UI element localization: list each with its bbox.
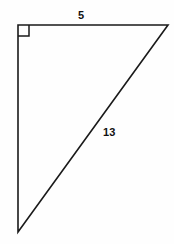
right-triangle-figure: 5 13 <box>0 0 174 244</box>
hypotenuse-length-label: 13 <box>103 127 116 138</box>
triangle-outline <box>18 25 168 232</box>
top-side-length-label: 5 <box>78 10 84 21</box>
right-angle-marker-icon <box>18 25 29 36</box>
triangle-drawing <box>0 0 174 244</box>
